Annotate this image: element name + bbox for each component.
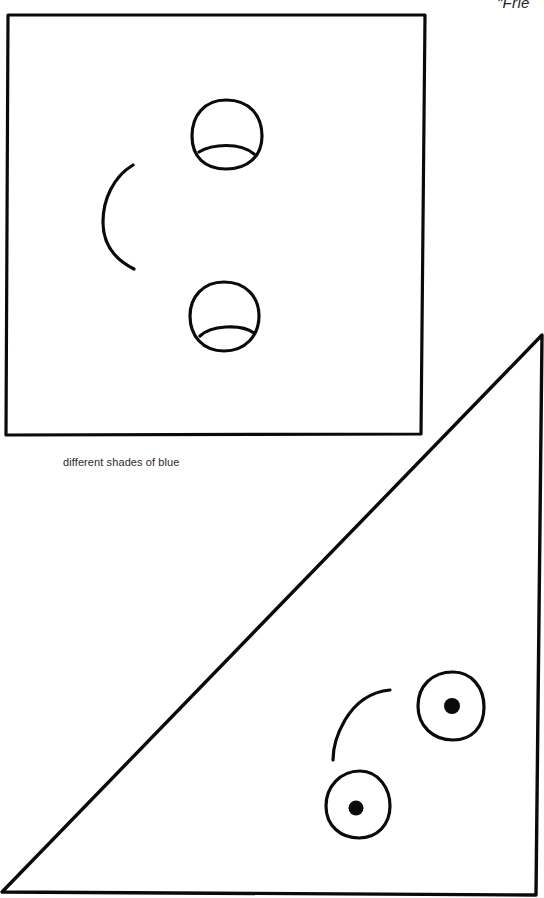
figure-caption: different shades of blue <box>63 456 180 468</box>
triangle-pupil-right <box>444 698 460 714</box>
square-eye-top <box>192 100 262 169</box>
triangle-figure <box>2 335 542 895</box>
triangle-eye-left <box>326 771 390 838</box>
illustration-canvas <box>0 0 544 898</box>
triangle-eye-right <box>418 672 484 740</box>
square-mouth <box>103 165 134 269</box>
square-figure <box>6 15 425 435</box>
square-eye-bottom <box>190 282 259 351</box>
triangle-mouth <box>333 690 390 760</box>
worksheet-page: "Frie <box>0 0 544 898</box>
triangle-outline <box>2 335 542 895</box>
triangle-pupil-left <box>349 801 364 816</box>
square-outline <box>6 15 425 435</box>
